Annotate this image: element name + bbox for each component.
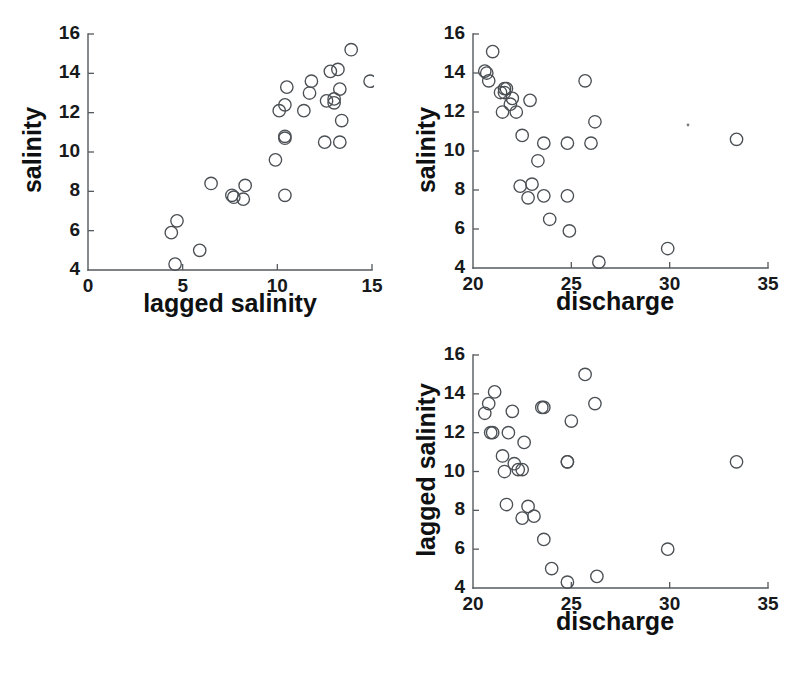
- data-point: [518, 436, 530, 448]
- y-tick-label: 4: [454, 576, 465, 597]
- data-point: [345, 44, 357, 56]
- data-point: [538, 533, 550, 545]
- y-tick-label: 12: [444, 421, 465, 442]
- data-point: [171, 215, 183, 227]
- data-points-panel-2: [479, 45, 743, 268]
- data-point: [662, 543, 674, 555]
- data-point: [269, 154, 281, 166]
- data-point: [524, 94, 536, 106]
- y-tick-label: 16: [444, 22, 465, 43]
- data-points-panel-3: [479, 368, 743, 588]
- data-point: [364, 75, 376, 87]
- data-point: [496, 450, 508, 462]
- axes-panel-3: [473, 355, 768, 588]
- tick-marks-panel-3: [473, 355, 768, 588]
- data-point: [298, 105, 310, 117]
- tick-labels-panel-2: 2025303546810121416: [444, 22, 779, 294]
- data-point: [591, 570, 603, 582]
- data-point: [522, 192, 534, 204]
- data-point: [538, 137, 550, 149]
- data-point: [516, 512, 528, 524]
- y-tick-label: 4: [69, 258, 80, 279]
- x-tick-label: 35: [757, 593, 779, 614]
- data-point: [496, 106, 508, 118]
- x-axis-title-panel-1: lagged salinity: [143, 289, 317, 317]
- data-point: [332, 63, 344, 75]
- data-point: [498, 465, 510, 477]
- axes-panel-1: [88, 34, 372, 270]
- data-point: [589, 116, 601, 128]
- scatter-panel-lagged-salinity-vs-discharge: 2025303546810121416 lagged salinity disc…: [400, 340, 810, 673]
- data-point: [506, 405, 518, 417]
- y-tick-label: 6: [454, 217, 465, 238]
- y-tick-label: 10: [444, 460, 465, 481]
- data-point: [563, 225, 575, 237]
- y-tick-label: 10: [444, 139, 465, 160]
- data-point: [318, 136, 330, 148]
- data-point: [538, 190, 550, 202]
- y-tick-label: 14: [444, 61, 466, 82]
- data-point: [528, 510, 540, 522]
- plot-area-panel-3: 2025303546810121416 lagged salinity disc…: [400, 340, 810, 673]
- data-point: [579, 75, 591, 87]
- data-point: [502, 426, 514, 438]
- data-point: [579, 368, 591, 380]
- x-tick-label: 35: [757, 273, 779, 294]
- data-point: [500, 498, 512, 510]
- data-point: [194, 244, 206, 256]
- data-point: [205, 177, 217, 189]
- y-tick-label: 10: [59, 140, 80, 161]
- data-point: [561, 456, 573, 468]
- y-tick-label: 16: [59, 22, 80, 43]
- x-axis-title-panel-3: discharge: [556, 607, 674, 635]
- x-axis-title-panel-2: discharge: [556, 287, 674, 315]
- y-tick-label: 12: [59, 101, 80, 122]
- y-tick-label: 4: [454, 256, 465, 277]
- data-point: [305, 75, 317, 87]
- data-point: [662, 242, 674, 254]
- data-point: [488, 386, 500, 398]
- data-point: [593, 256, 605, 268]
- data-point: [585, 137, 597, 149]
- data-point: [336, 114, 348, 126]
- data-point: [324, 65, 336, 77]
- x-tick-label: 20: [462, 593, 483, 614]
- y-tick-label: 8: [454, 178, 465, 199]
- data-point: [516, 129, 528, 141]
- tick-marks-panel-1: [88, 34, 372, 270]
- x-tick-label: 15: [361, 275, 383, 296]
- data-point: [320, 95, 332, 107]
- data-point: [303, 87, 315, 99]
- y-tick-label: 8: [69, 179, 80, 200]
- scatter-panel-salinity-vs-lagged-salinity: 05101546810121416 salinity lagged salini…: [0, 0, 400, 320]
- data-point: [730, 133, 742, 145]
- data-point: [589, 397, 601, 409]
- y-tick-label: 14: [444, 382, 466, 403]
- data-points-panel-1: [165, 44, 376, 271]
- data-point: [279, 189, 291, 201]
- data-point: [281, 81, 293, 93]
- y-tick-label: 6: [454, 537, 465, 558]
- data-point: [514, 180, 526, 192]
- x-tick-label: 0: [83, 275, 94, 296]
- data-point: [561, 137, 573, 149]
- stray-speck-icon: [687, 124, 690, 127]
- y-tick-label: 8: [454, 498, 465, 519]
- y-tick-label: 6: [69, 219, 80, 240]
- x-tick-label: 20: [462, 273, 483, 294]
- y-tick-label: 12: [444, 100, 465, 121]
- y-axis-title-panel-2: salinity: [412, 107, 440, 193]
- data-point: [165, 226, 177, 238]
- scatter-panel-salinity-vs-discharge: 2025303546810121416 salinity discharge: [400, 0, 810, 320]
- y-tick-label: 16: [444, 343, 465, 364]
- tick-marks-panel-2: [473, 34, 768, 268]
- data-point: [545, 562, 557, 574]
- data-point: [561, 190, 573, 202]
- data-point: [532, 155, 544, 167]
- y-axis-title-panel-3: lagged salinity: [412, 383, 440, 557]
- data-point: [486, 45, 498, 57]
- plot-area-panel-2: 2025303546810121416 salinity discharge: [400, 0, 810, 320]
- y-axis-title-panel-1: salinity: [18, 107, 46, 193]
- y-tick-label: 14: [59, 61, 81, 82]
- data-point: [565, 415, 577, 427]
